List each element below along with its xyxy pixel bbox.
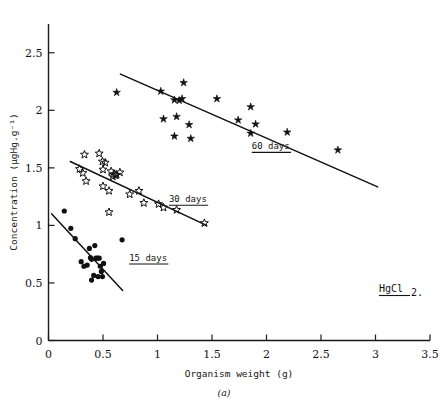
data-point [79,169,87,177]
data-point [180,79,188,86]
y-axis-ticks [49,53,55,341]
series-points-30-days [76,149,209,226]
data-point [91,273,96,278]
data-point [105,187,113,195]
data-point [247,103,255,110]
series-label-15-days: 15 days [129,253,167,263]
x-tick-label-1: 1 [154,348,161,361]
x-axis-title: Organism weight (g) [185,368,294,379]
data-point [79,259,84,264]
data-point [185,121,193,128]
data-point [187,135,195,142]
data-point [100,274,105,279]
data-point [82,177,90,185]
treatment-label: HgCl [379,283,403,294]
data-point [87,246,92,251]
y-tick-label-2: 2 [36,104,43,117]
data-point [252,120,260,127]
series-points-15-days [62,208,125,282]
y-tick-label-2.5: 2.5 [25,47,43,60]
y-tick-label-0: 0 [36,335,43,348]
y-tick-label-1: 1 [36,219,43,232]
data-point [80,150,88,158]
x-tick-label-0: 0 [45,348,52,361]
data-point [68,226,73,231]
x-tick-label-3: 3 [372,348,379,361]
data-point [99,269,104,274]
x-tick-label-2: 2 [263,348,270,361]
data-point [160,115,168,122]
treatment-annotation: HgCl 2. [379,283,423,298]
x-tick-label-1.5: 1.5 [203,348,221,361]
y-tick-label-1.5: 1.5 [25,162,43,175]
series-label-60-days: 60 days [252,141,290,151]
x-tick-label-3.5: 3.5 [421,348,439,361]
data-point [89,277,94,282]
panel-caption: (a) [217,387,230,398]
data-point [171,132,179,139]
data-point [119,237,124,242]
y-axis-title: Concentration (µgHg.g⁻¹) [8,113,19,250]
data-point [73,236,78,241]
data-point [105,208,113,216]
x-axis-ticks [49,335,431,341]
data-point [92,243,97,248]
data-point [101,158,109,166]
y-tick-label-0.5: 0.5 [25,277,43,290]
trend-line-15-days [52,214,123,291]
data-point [234,116,242,123]
data-point [113,88,121,95]
data-point [140,199,148,207]
data-point [62,208,67,213]
scatter-plot: 00.511.522.533.5 00.511.522.5 15 days30 … [0,0,448,405]
data-point [101,261,106,266]
x-tick-label-0.5: 0.5 [94,348,112,361]
y-axis-tick-labels: 00.511.522.5 [25,47,43,348]
data-point [85,263,90,268]
data-point [99,165,107,173]
axes [49,24,431,341]
data-point [95,149,103,157]
data-point [89,257,94,262]
figure-panel-a: 00.511.522.533.5 00.511.522.5 15 days30 … [0,0,448,405]
treatment-subscript: 2. [411,287,423,298]
data-point [173,113,181,120]
data-point [213,95,221,102]
x-tick-label-2.5: 2.5 [312,348,330,361]
series-label-30-days: 30 days [169,194,207,204]
data-point [97,256,102,261]
x-axis-tick-labels: 00.511.522.533.5 [45,348,439,361]
data-point [283,128,291,135]
data-point [334,146,342,153]
series-points-60-days [113,79,342,154]
data-point [99,182,107,190]
